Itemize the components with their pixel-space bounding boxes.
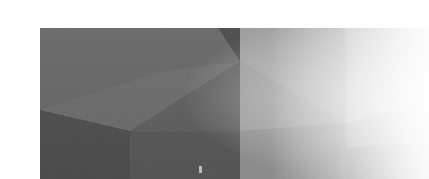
page-root — [0, 0, 429, 179]
facet-artwork — [40, 28, 429, 179]
abstract-faceted-banner — [40, 28, 429, 179]
scan-artifact-speck — [199, 166, 202, 173]
corner-glow-overlay — [40, 28, 429, 179]
